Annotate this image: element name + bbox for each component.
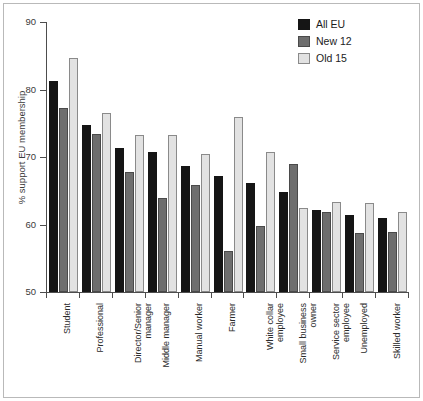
bar bbox=[256, 226, 265, 292]
bar bbox=[322, 212, 331, 292]
x-axis-tick-label: Manual worker bbox=[194, 303, 204, 362]
bar bbox=[365, 203, 374, 292]
y-axis-tick-label: 70 bbox=[12, 152, 36, 162]
x-axis-tick bbox=[46, 293, 47, 298]
bar-group bbox=[115, 22, 144, 292]
x-axis-tick-label-line: Middle manager bbox=[161, 303, 171, 368]
chart-figure: % support EU membership 5060708090 Stude… bbox=[0, 0, 423, 401]
x-axis-tick-label: Farmer bbox=[227, 303, 237, 332]
bar bbox=[181, 166, 190, 292]
bar bbox=[102, 113, 111, 292]
bar bbox=[168, 135, 177, 292]
x-axis-tick-label-line: Small business bbox=[298, 303, 308, 364]
bar-group bbox=[214, 22, 243, 292]
x-axis-tick-label-line: Unemployed bbox=[359, 303, 369, 354]
bar bbox=[82, 125, 91, 292]
y-axis-title: % support EU membership bbox=[16, 53, 27, 243]
bar bbox=[289, 164, 298, 292]
x-axis-tick bbox=[375, 293, 376, 298]
x-axis-tick-label-line: employee bbox=[275, 303, 285, 350]
bar bbox=[332, 202, 341, 292]
bar bbox=[201, 154, 210, 292]
bar-group bbox=[181, 22, 210, 292]
bar bbox=[148, 152, 157, 292]
x-axis-tick-label-line: Farmer bbox=[227, 303, 237, 332]
x-axis-tick bbox=[178, 293, 179, 298]
legend-item-old-15: Old 15 bbox=[298, 51, 394, 66]
x-axis-tick-label-line: Service sector bbox=[331, 303, 341, 360]
bar bbox=[398, 212, 407, 292]
legend-item-new-12: New 12 bbox=[298, 34, 394, 49]
x-axis-tick bbox=[342, 293, 343, 298]
x-axis-tick-label: White collaremployee bbox=[265, 303, 285, 350]
bar bbox=[266, 152, 275, 292]
bar bbox=[378, 218, 387, 292]
x-axis-tick-label-line: Skilled worker bbox=[392, 303, 402, 359]
y-axis-tick-label: 60 bbox=[12, 220, 36, 230]
bar bbox=[345, 215, 354, 292]
bar bbox=[49, 81, 58, 292]
legend-item-all-eu: All EU bbox=[298, 17, 394, 32]
x-axis-tick bbox=[211, 293, 212, 298]
x-axis-tick bbox=[408, 293, 409, 298]
legend-label-new-12: New 12 bbox=[316, 36, 352, 47]
legend-label-all-eu: All EU bbox=[316, 19, 345, 30]
bar bbox=[69, 58, 78, 292]
x-axis-tick-label-line: owner bbox=[308, 303, 318, 364]
x-axis-tick-label-line: Manual worker bbox=[194, 303, 204, 362]
x-axis-tick-label-line: manager bbox=[143, 303, 153, 363]
bar bbox=[299, 208, 308, 292]
x-axis-line bbox=[46, 292, 409, 293]
x-axis-tick-label-line: White collar bbox=[265, 303, 275, 350]
legend-swatch-icon-new-12 bbox=[298, 36, 310, 47]
bar bbox=[234, 117, 243, 292]
x-axis-tick bbox=[309, 293, 310, 298]
x-axis-tick-label: Student bbox=[62, 303, 72, 334]
bar bbox=[125, 172, 134, 292]
bar-group bbox=[246, 22, 275, 292]
bar bbox=[158, 198, 167, 293]
bar bbox=[279, 192, 288, 292]
x-axis-tick bbox=[145, 293, 146, 298]
x-axis-tick-label: Director/Seniormanager bbox=[133, 303, 153, 363]
x-axis-tick-label: Professional bbox=[95, 303, 105, 353]
bar bbox=[388, 232, 397, 292]
y-axis-title-container: % support EU membership bbox=[0, 0, 36, 300]
x-axis-tick-label-line: Director/Senior bbox=[133, 303, 143, 363]
x-axis-tick-label-line: employee bbox=[341, 303, 351, 360]
bar bbox=[191, 185, 200, 292]
legend-label-old-15: Old 15 bbox=[316, 53, 347, 64]
y-axis-tick-label: 50 bbox=[12, 287, 36, 297]
legend-swatch-icon-old-15 bbox=[298, 53, 310, 64]
bar bbox=[115, 148, 124, 292]
x-axis-tick-label: Middle manager bbox=[161, 303, 171, 368]
bar bbox=[224, 251, 233, 292]
x-axis-tick-label: Unemployed bbox=[359, 303, 369, 354]
bar bbox=[355, 233, 364, 292]
x-axis-tick-label: Service sectoremployee bbox=[331, 303, 351, 360]
bar bbox=[135, 135, 144, 292]
chart-legend: All EU New 12 Old 15 bbox=[298, 17, 394, 68]
bar bbox=[214, 176, 223, 292]
x-axis-tick bbox=[112, 293, 113, 298]
x-axis-tick bbox=[243, 293, 244, 298]
legend-swatch-icon-all-eu bbox=[298, 19, 310, 30]
x-axis-tick-label-line: Professional bbox=[95, 303, 105, 353]
bar-group bbox=[82, 22, 111, 292]
x-axis-tick-label-line: Student bbox=[62, 303, 72, 334]
x-axis-tick bbox=[79, 293, 80, 298]
bar-group bbox=[148, 22, 177, 292]
x-axis-tick bbox=[276, 293, 277, 298]
bar bbox=[246, 183, 255, 292]
y-axis-tick-label: 90 bbox=[12, 17, 36, 27]
bar bbox=[92, 134, 101, 292]
x-axis-tick-label: Small businessowner bbox=[298, 303, 318, 364]
x-axis-tick-label: Skilled worker bbox=[392, 303, 402, 359]
bar bbox=[59, 108, 68, 292]
bar bbox=[312, 210, 321, 292]
bar-group bbox=[49, 22, 78, 292]
y-axis-tick-label: 80 bbox=[12, 85, 36, 95]
